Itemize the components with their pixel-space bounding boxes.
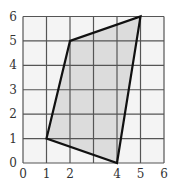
coordinate-grid-chart: 012456 0123456 — [0, 0, 176, 184]
x-tick-label: 6 — [160, 167, 168, 181]
y-tick-label: 1 — [9, 132, 17, 146]
y-tick-label: 4 — [9, 58, 17, 72]
y-tick-label: 0 — [9, 156, 17, 170]
y-tick-label: 3 — [9, 83, 17, 97]
x-tick-label: 0 — [19, 167, 27, 181]
x-tick-label: 2 — [66, 167, 74, 181]
y-axis-ticks: 0123456 — [9, 10, 17, 171]
x-axis-ticks: 012456 — [19, 167, 168, 181]
y-tick-label: 6 — [9, 10, 17, 24]
x-tick-label: 5 — [137, 167, 145, 181]
x-tick-label: 1 — [43, 167, 51, 181]
y-tick-label: 2 — [9, 107, 17, 121]
x-tick-label: 4 — [113, 167, 121, 181]
y-tick-label: 5 — [9, 34, 17, 48]
